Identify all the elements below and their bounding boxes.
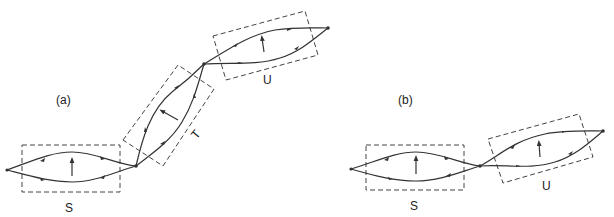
u-b-arrowheads	[510, 131, 573, 167]
t-arrow-icon	[162, 111, 178, 120]
box-u-b-label: U	[542, 179, 551, 193]
panel-b-label: (b)	[398, 93, 413, 107]
box-t-label: T	[188, 126, 204, 141]
node-b-start	[349, 167, 352, 170]
node-a-start	[5, 168, 8, 171]
box-u-b	[488, 114, 593, 183]
box-s-b-label: S	[410, 199, 418, 213]
u-a-arrow-icon	[262, 38, 264, 52]
node-a-end	[326, 26, 330, 30]
s-b-arrowheads	[384, 156, 451, 180]
u-b-arrow-icon	[539, 143, 540, 157]
node-b-end	[601, 129, 605, 133]
flow-diagram: (a) S T	[0, 0, 614, 217]
box-u-a-label: U	[263, 73, 272, 87]
box-s-a-label: S	[65, 201, 73, 215]
box-u-a	[213, 11, 318, 80]
diagram-canvas: (a) S T	[0, 0, 614, 217]
panel-a-label: (a)	[56, 93, 71, 107]
panel-a: (a) S T	[5, 11, 329, 215]
panel-b: (b) S U	[349, 93, 604, 213]
u-a-arrowheads	[233, 29, 299, 64]
box-t	[123, 65, 214, 166]
